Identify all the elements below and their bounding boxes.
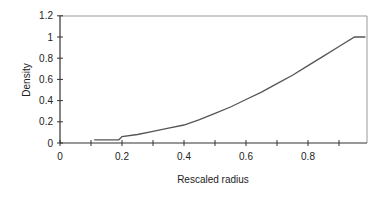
- y-tick-label: 0: [47, 138, 53, 149]
- y-axis-title: Density: [21, 63, 32, 96]
- y-tick-label: 0.8: [39, 53, 53, 64]
- plot-frame: [60, 16, 367, 143]
- x-tick-label: 0.4: [177, 151, 191, 162]
- x-tick-label: 0.8: [301, 151, 315, 162]
- y-axis: 00.20.40.60.811.2: [39, 10, 63, 148]
- x-axis-title: Rescaled radius: [177, 174, 249, 185]
- y-tick-label: 0.6: [39, 74, 53, 85]
- y-tick-label: 0.2: [39, 116, 53, 127]
- x-tick-label: 0.6: [239, 151, 253, 162]
- series-layer: [94, 37, 365, 140]
- y-tick-label: 1: [47, 32, 53, 43]
- x-axis: 00.20.40.60.8: [57, 140, 367, 162]
- density-chart: 00.20.40.60.811.2 00.20.40.60.8 Rescaled…: [0, 0, 387, 198]
- x-tick-label: 0: [57, 151, 63, 162]
- x-tick-label: 0.2: [115, 151, 129, 162]
- density-line: [94, 37, 365, 140]
- y-tick-label: 1.2: [39, 10, 53, 21]
- y-tick-label: 0.4: [39, 95, 53, 106]
